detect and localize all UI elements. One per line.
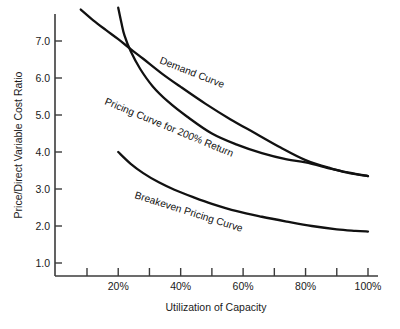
y-tick-label: 2.0 (35, 220, 50, 232)
curve-label-pricing-200: Pricing Curve for 200% Return (103, 96, 235, 159)
curve-label-demand: Demand Curve (158, 55, 226, 90)
x-axis-title: Utilization of Capacity (166, 301, 268, 313)
curve-pricing-curve-for-200-return (118, 8, 368, 176)
x-tick-label: 80% (295, 280, 316, 292)
y-tick-label: 6.0 (35, 72, 50, 84)
x-tick-label: 40% (170, 280, 191, 292)
y-tick-label: 1.0 (35, 257, 50, 269)
y-axis-title: Price/Direct Variable Cost Ratio (12, 71, 24, 218)
x-axis-tick-labels: 20%40%60%80%100% (108, 280, 382, 292)
y-tick-label: 4.0 (35, 146, 50, 158)
y-axis-ticks (55, 41, 62, 263)
y-axis-tick-labels: 1.02.03.04.05.06.07.0 (35, 35, 50, 269)
x-tick-label: 20% (108, 280, 129, 292)
x-tick-label: 60% (233, 280, 254, 292)
x-axis-ticks (87, 268, 368, 276)
y-tick-label: 3.0 (35, 183, 50, 195)
x-tick-label: 100% (355, 280, 382, 292)
chart-container: 1.02.03.04.05.06.07.0 20%40%60%80%100% P… (0, 0, 400, 329)
y-tick-label: 5.0 (35, 109, 50, 121)
curve-breakeven-pricing-curve (118, 152, 368, 232)
y-tick-label: 7.0 (35, 35, 50, 47)
chart-curves (81, 8, 368, 232)
chart-svg: 1.02.03.04.05.06.07.0 20%40%60%80%100% P… (0, 0, 400, 329)
